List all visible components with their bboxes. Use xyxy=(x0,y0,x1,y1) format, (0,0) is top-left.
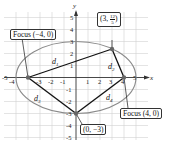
upper-point-label: (3, 125) xyxy=(97,12,121,27)
focus-right-label: Focus (4, 0) xyxy=(120,108,162,119)
y-tick: 1 xyxy=(70,62,73,69)
x-tick: -3 xyxy=(36,78,41,85)
upper-point xyxy=(110,47,114,51)
d1-label: d1 xyxy=(52,57,59,67)
x-tick: 3 xyxy=(109,78,112,85)
y-tick: -4 xyxy=(66,122,72,129)
x-axis-label: x xyxy=(149,74,154,82)
upper-point-prefix: (3, xyxy=(100,14,110,23)
x-tick: -1 xyxy=(60,78,65,85)
x-tick: -4 xyxy=(9,78,15,85)
y-axis-label: y xyxy=(72,2,77,10)
y-tick: -5 xyxy=(66,134,71,141)
upper-point-suffix: ) xyxy=(115,14,118,23)
y-tick: -1 xyxy=(66,86,71,93)
y-tick: 3 xyxy=(70,38,73,45)
y-axis-arrow-icon xyxy=(74,10,78,16)
lower-point-label: (0, −3) xyxy=(80,124,106,135)
x-tick: 2 xyxy=(98,78,101,85)
ellipse-diagram: -5 -4 -3 -2 -1 1 2 3 4 5 5 4 3 2 1 -1 -2… xyxy=(0,0,175,143)
y-tick: 5 xyxy=(70,14,73,21)
tick-labels: -5 -4 -3 -2 -1 1 2 3 4 5 5 4 3 2 1 -1 -2… xyxy=(2,2,154,141)
y-tick: 2 xyxy=(70,50,73,57)
lower-point xyxy=(74,111,78,115)
focus-left-label: Focus (−4, 0) xyxy=(10,29,56,40)
y-tick: -2 xyxy=(66,98,71,105)
x-tick: 1 xyxy=(86,78,89,85)
focus-left-point xyxy=(26,75,30,79)
d2-label: d2 xyxy=(108,62,115,72)
y-tick: -3 xyxy=(66,110,71,117)
x-tick: 5 xyxy=(133,74,136,81)
distance-labels: d1 d2 d3 d4 xyxy=(34,57,115,104)
x-tick: -5 xyxy=(2,74,7,81)
x-tick: -2 xyxy=(48,78,53,85)
